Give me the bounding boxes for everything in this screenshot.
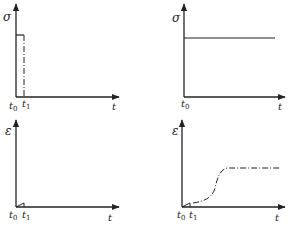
tick-t1: t1 xyxy=(22,98,31,111)
y-axis-label: ε xyxy=(172,124,178,138)
y-axis-label: σ xyxy=(3,10,12,24)
tick-t0: t0 xyxy=(9,100,18,113)
stress-strain-time-diagram: σ t t0 t1 σ t t0 ε t t0 t1 ε t t0 t1 xyxy=(0,0,290,233)
panel-bottom-left: ε t t0 t1 xyxy=(5,120,119,223)
y-axis-label: σ xyxy=(172,11,181,25)
panel-top-right: σ t t0 xyxy=(172,4,285,112)
x-axis-label: t xyxy=(108,212,113,223)
y-axis-label: ε xyxy=(5,124,11,138)
x-axis-label: t xyxy=(275,212,280,223)
tick-t0: t0 xyxy=(181,98,190,111)
x-axis-label: t xyxy=(278,101,283,112)
panel-bottom-right: ε t t0 t1 xyxy=(172,120,285,223)
x-axis-label: t xyxy=(112,101,117,112)
tick-t1: t1 xyxy=(189,209,198,222)
strain-creep-curve-dashdot xyxy=(193,168,281,203)
tick-t1: t1 xyxy=(22,209,31,222)
tick-t0: t0 xyxy=(9,209,18,222)
panel-top-left: σ t t0 t1 xyxy=(3,4,119,113)
tick-t0: t0 xyxy=(177,209,186,222)
